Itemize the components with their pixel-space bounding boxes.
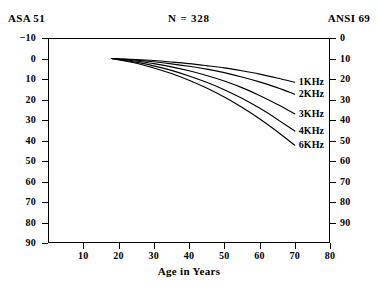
y-axis-left-tick (42, 79, 48, 80)
x-axis-tick-label: 70 (280, 251, 310, 261)
y-axis-left-tick (42, 161, 48, 162)
x-axis-tick (224, 243, 225, 249)
y-axis-right-tick (330, 223, 336, 224)
y-axis-left-tick (42, 243, 48, 244)
x-axis-tick (330, 243, 331, 249)
series-label-4khz: 4KHz (299, 126, 324, 136)
y-axis-left-tick-label: −10 (2, 33, 36, 43)
y-axis-left-tick-label: 10 (2, 74, 36, 84)
x-axis-tick-label: 60 (245, 251, 275, 261)
y-axis-left-tick-label: 40 (2, 136, 36, 146)
y-axis-left-tick (42, 141, 48, 142)
x-axis-tick-label: 80 (315, 251, 345, 261)
y-axis-right-tick (330, 202, 336, 203)
y-axis-right-tick-label: 70 (340, 177, 374, 187)
y-axis-left-tick-label: 30 (2, 115, 36, 125)
series-label-6khz: 6KHz (299, 140, 324, 150)
y-axis-left-tick-label: 80 (2, 218, 36, 228)
x-axis-title: Age in Years (0, 265, 378, 277)
y-axis-right-tick-label: 60 (340, 156, 374, 166)
chart-title-sample-size: N = 328 (0, 12, 378, 24)
x-axis-tick (154, 243, 155, 249)
y-axis-right-tick (330, 141, 336, 142)
x-axis-tick-label: 40 (174, 251, 204, 261)
x-axis-tick-label: 50 (209, 251, 239, 261)
hearing-threshold-chart: ASA 51 ANSI 69 N = 328 −1001020304050607… (0, 0, 378, 287)
x-axis-tick (260, 243, 261, 249)
y-axis-left-tick (42, 223, 48, 224)
y-axis-left-tick (42, 202, 48, 203)
y-axis-left-tick (42, 100, 48, 101)
series-label-2khz: 2KHz (299, 89, 324, 99)
x-axis-tick (83, 243, 84, 249)
y-axis-left-tick (42, 59, 48, 60)
y-axis-right-tick (330, 182, 336, 183)
plot-area (48, 38, 330, 243)
y-axis-left-tick-label: 0 (2, 54, 36, 64)
y-axis-left-tick-label: 50 (2, 156, 36, 166)
y-axis-right-tick (330, 161, 336, 162)
x-axis-tick (295, 243, 296, 249)
y-axis-left-tick-label: 20 (2, 95, 36, 105)
y-axis-right-tick-label: 50 (340, 136, 374, 146)
series-label-1khz: 1KHz (299, 77, 324, 87)
y-axis-right-tick (330, 100, 336, 101)
x-axis-tick (119, 243, 120, 249)
y-axis-left-tick (42, 120, 48, 121)
series-label-3khz: 3KHz (299, 109, 324, 119)
y-axis-right-tick (330, 79, 336, 80)
y-axis-right-tick-label: 80 (340, 197, 374, 207)
y-axis-right-tick-label: 90 (340, 218, 374, 228)
y-axis-left-tick-label: 70 (2, 197, 36, 207)
y-axis-right-tick (330, 38, 336, 39)
y-axis-right-tick-label: 10 (340, 54, 374, 64)
y-axis-left-tick-label: 60 (2, 177, 36, 187)
x-axis-tick-label: 30 (139, 251, 169, 261)
x-axis-tick-label: 20 (104, 251, 134, 261)
x-axis-tick (189, 243, 190, 249)
y-axis-right-tick-label: 0 (340, 33, 374, 43)
y-axis-left-tick-label: 90 (2, 238, 36, 248)
y-axis-right-tick (330, 59, 336, 60)
y-axis-right-tick-label: 20 (340, 74, 374, 84)
x-axis-tick-label: 10 (68, 251, 98, 261)
y-axis-right-tick-label: 30 (340, 95, 374, 105)
y-axis-left-tick (42, 38, 48, 39)
y-axis-right-tick (330, 120, 336, 121)
y-axis-left-tick (42, 182, 48, 183)
y-axis-right-tick-label: 40 (340, 115, 374, 125)
